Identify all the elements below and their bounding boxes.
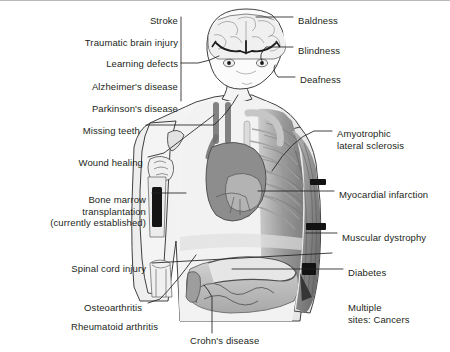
label-traumatic-brain-injury: Traumatic brain injury	[85, 37, 178, 49]
label-muscular-dystrophy: Muscular dystrophy	[342, 232, 426, 244]
muscular-dystrophy-marker	[306, 223, 326, 230]
label-myocardial-infarction: Myocardial infarction	[339, 189, 428, 201]
label-learning-defects: Learning defects	[106, 58, 178, 70]
intestines	[186, 257, 299, 313]
label-missing-teeth: Missing teeth	[83, 125, 140, 137]
label-spinal-cord-injury: Spinal cord injury	[71, 263, 146, 275]
label-stroke: Stroke	[150, 15, 178, 27]
label-bone-marrow-transplantation: Bone marrow transplantation (currently e…	[50, 194, 146, 229]
label-diabetes: Diabetes	[348, 267, 386, 279]
disease-body-map-figure: StrokeTraumatic brain injuryLearning def…	[0, 0, 450, 352]
leader-deafness	[274, 65, 295, 77]
brain-anatomy	[208, 14, 286, 59]
label-amyotrophic-lateral-sclerosis: Amyotrophic lateral sclerosis	[337, 128, 404, 151]
label-baldness: Baldness	[298, 15, 338, 27]
label-multiple-sites-cancers: Multiple sites: Cancers	[348, 302, 410, 325]
label-blindness: Blindness	[298, 45, 340, 57]
label-parkinsons-disease: Parkinson's disease	[92, 103, 178, 115]
label-deafness: Deafness	[300, 74, 341, 86]
myocardial-marker	[310, 179, 326, 185]
label-rheumatoid-arthritis: Rheumatoid arthritis	[71, 321, 158, 333]
label-crohns-disease: Crohn's disease	[190, 335, 259, 347]
label-osteoarthritis: Osteoarthritis	[84, 302, 142, 314]
label-wound-healing: Wound healing	[78, 157, 143, 169]
label-alzheimers-disease: Alzheimer's disease	[92, 81, 178, 93]
human-body-illustration	[0, 1, 450, 352]
torso-anatomy	[178, 101, 310, 323]
